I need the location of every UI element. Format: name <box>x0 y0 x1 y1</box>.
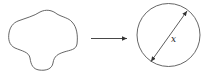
diagram-canvas: x <box>0 0 202 76</box>
irregular-blob-shape <box>9 10 78 70</box>
diameter-line <box>151 11 187 62</box>
diameter-label: x <box>171 34 176 44</box>
circle-shape <box>137 4 200 67</box>
